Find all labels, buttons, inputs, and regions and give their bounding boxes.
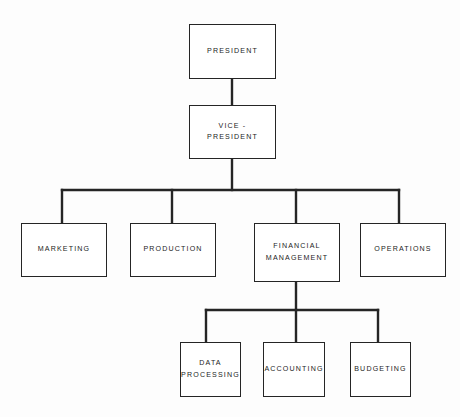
node-budgeting-label: BUDGETING [352,364,409,375]
node-president[interactable]: PRESIDENT [189,24,276,79]
node-operations[interactable]: OPERATIONS [360,223,446,277]
node-financial-management[interactable]: FINANCIAL MANAGEMENT [254,223,340,282]
node-president-label: PRESIDENT [205,46,260,57]
node-data-processing-label: DATA PROCESSING [179,358,242,381]
node-accounting[interactable]: ACCOUNTING [263,342,325,397]
org-chart: PRESIDENT VICE - PRESIDENT MARKETING PRO… [0,0,460,417]
node-production[interactable]: PRODUCTION [130,223,216,277]
node-production-label: PRODUCTION [141,244,204,255]
node-marketing[interactable]: MARKETING [21,223,107,277]
node-vice-president[interactable]: VICE - PRESIDENT [189,105,276,159]
node-vice-president-label: VICE - PRESIDENT [205,121,260,144]
node-financial-management-label: FINANCIAL MANAGEMENT [264,241,330,264]
node-budgeting[interactable]: BUDGETING [350,342,411,397]
node-accounting-label: ACCOUNTING [262,364,325,375]
node-data-processing[interactable]: DATA PROCESSING [180,342,241,397]
node-marketing-label: MARKETING [36,244,93,255]
node-operations-label: OPERATIONS [372,244,433,255]
